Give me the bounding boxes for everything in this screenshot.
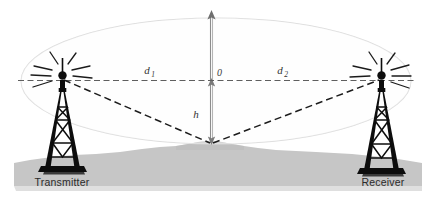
distance-left-subscript: 1: [151, 70, 155, 79]
fresnel-zone-diagram: d 1 d 2 0 h Transmitter Receiver: [0, 0, 434, 200]
distance-right-label: d: [277, 64, 283, 76]
distance-left-label: d: [144, 64, 150, 76]
distance-right-subscript: 2: [284, 70, 288, 79]
origin-label: 0: [217, 67, 222, 78]
receiver-label: Receiver: [361, 176, 404, 188]
transmitter-label: Transmitter: [35, 176, 90, 188]
height-label: h: [193, 108, 199, 120]
